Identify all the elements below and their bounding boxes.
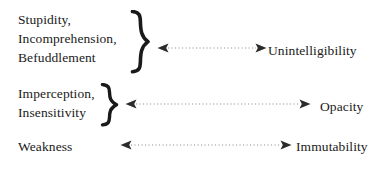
term-group-left: Weakness [18,137,72,156]
term-line: Incomprehension, [18,29,117,48]
term-line: Weakness [18,137,72,156]
term-line: Befuddlement [18,48,117,67]
double-headed-arrow-icon [120,138,292,152]
right-label-unintelligibility: Unintelligibility [268,41,357,60]
right-label-immutability: Immutability [296,137,368,156]
diagram-row-opacity: Imperception, Insensitivity Opacity [0,82,389,128]
term-group-left: Stupidity, Incomprehension, Befuddlement [18,10,117,67]
diagram-row-unintelligibility: Stupidity, Incomprehension, Befuddlement… [0,8,389,74]
term-line: Insensitivity [18,103,95,122]
curly-brace-icon [130,10,152,74]
double-headed-arrow-icon [157,41,267,55]
term-line: Imperception, [18,84,95,103]
double-headed-arrow-icon [125,97,311,111]
right-label-opacity: Opacity [320,97,363,116]
curly-brace-icon [100,83,120,127]
term-line: Stupidity, [18,10,117,29]
term-group-left: Imperception, Insensitivity [18,84,95,122]
correspondence-diagram: Stupidity, Incomprehension, Befuddlement… [0,0,389,171]
diagram-row-immutability: Weakness Immutability [0,134,389,160]
